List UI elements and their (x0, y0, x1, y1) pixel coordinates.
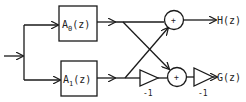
svg-text:+: + (174, 73, 179, 82)
output-g-label: G(z) (217, 72, 241, 83)
block-a1-label: A1(z) (63, 74, 91, 88)
block-a0-label: A0(z) (62, 19, 90, 33)
adder-top: + (165, 11, 184, 30)
block-diagram: A0(z) A1(z) + H(z) -1 + -1 G(z) (0, 0, 246, 102)
svg-text:-1: -1 (198, 89, 208, 98)
output-h-label: H(z) (217, 15, 241, 26)
adder-bottom: + (168, 68, 187, 87)
input-line (4, 25, 60, 80)
block-a1: A1(z) (61, 61, 97, 96)
block-output-lines (97, 22, 169, 78)
gain-1-triangle: -1 (140, 70, 158, 98)
svg-text:+: + (171, 16, 176, 25)
gain-2-triangle: -1 (194, 68, 213, 98)
block-a0: A0(z) (59, 6, 97, 41)
svg-text:-1: -1 (143, 89, 153, 98)
